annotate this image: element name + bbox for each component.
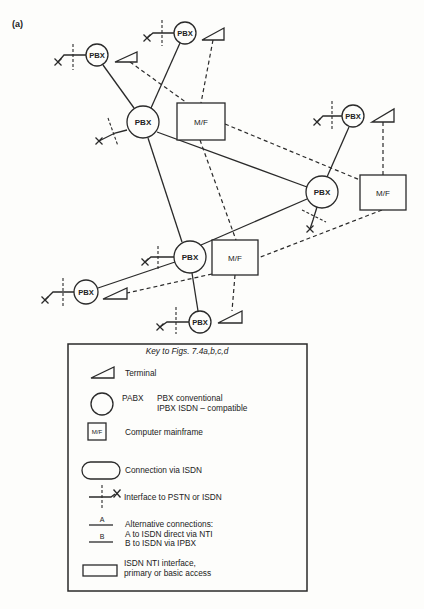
legend-interface-label: Interface to PSTN or ISDN bbox=[124, 492, 222, 502]
alt-a-marker: A bbox=[100, 516, 105, 523]
pbx-bottom: PBX bbox=[189, 311, 211, 333]
panel-label: (a) bbox=[12, 19, 23, 29]
pbx-label: PBX bbox=[314, 188, 331, 197]
pbx-label: PBX bbox=[78, 288, 94, 297]
pbx-label: PBX bbox=[345, 112, 361, 121]
legend-pabx-abbr: PABX bbox=[122, 393, 144, 403]
network-diagram-figure: (a) bbox=[0, 0, 424, 609]
pbx-label: PBX bbox=[177, 29, 193, 38]
alt-b-marker: B bbox=[100, 533, 105, 540]
mainframe-label: M/F bbox=[376, 189, 390, 198]
legend-title: Key to Figs. 7.4a,b,c,d bbox=[146, 346, 229, 356]
mainframe-bottom: M/F bbox=[212, 240, 258, 275]
pbx-right: PBX bbox=[306, 176, 338, 208]
pbx-top: PBX bbox=[174, 22, 196, 44]
legend-nti-line1: ISDN NTI interface, bbox=[124, 558, 196, 568]
legend-isdn-connection-label: Connection via ISDN bbox=[125, 465, 202, 475]
legend-mainframe-box-label: M/F bbox=[92, 428, 103, 435]
nti-rect-icon bbox=[83, 565, 117, 576]
legend-nti-line2: primary or basic access bbox=[124, 568, 211, 578]
legend-alternative-line3: B to ISDN via IPBX bbox=[125, 538, 196, 548]
pbx-top-left: PBX bbox=[86, 44, 108, 66]
pbx-label: PBX bbox=[192, 318, 208, 327]
pbx-main: PBX bbox=[127, 106, 159, 138]
pbx-bottom-left: PBX bbox=[74, 280, 98, 304]
legend-alternative-line1: Alternative connections: bbox=[125, 519, 213, 529]
legend-terminal-label: Terminal bbox=[125, 368, 157, 378]
pbx-label: PBX bbox=[135, 118, 152, 127]
legend-pabx-line1: PBX conventional bbox=[157, 393, 223, 403]
pbx-center-bottom: PBX bbox=[174, 241, 206, 273]
legend-alternative-line2: A to ISDN direct via NTI bbox=[125, 529, 213, 539]
mainframe-right: M/F bbox=[360, 175, 406, 210]
mainframe-main: M/F bbox=[177, 103, 225, 140]
legend-pabx-line2: IPBX ISDN – compatible bbox=[157, 403, 248, 413]
mainframe-label: M/F bbox=[194, 118, 208, 127]
mainframe-label: M/F bbox=[228, 254, 242, 263]
rounded-connection-icon bbox=[82, 462, 120, 479]
pbx-label: PBX bbox=[89, 51, 105, 60]
pabx-circle-icon bbox=[91, 393, 113, 415]
legend-mainframe-label: Computer mainframe bbox=[125, 427, 203, 437]
legend-box: Key to Figs. 7.4a,b,c,d Terminal PABX PB… bbox=[68, 344, 307, 591]
pbx-label: PBX bbox=[182, 253, 199, 262]
pbx-top-right: PBX bbox=[342, 105, 364, 127]
